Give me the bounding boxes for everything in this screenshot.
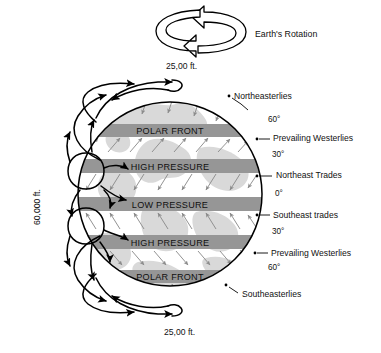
wind-label-northeasterlies: Northeasterlies [234,92,292,101]
band-label-polar-front-south: POLAR FRONT [136,272,204,282]
cell-arc [67,132,70,162]
altitude-label-side: 60,000 ft. [32,189,42,225]
cell-arc [67,236,70,266]
latitude-mark-60-south: 60° [268,264,280,272]
wind-label-southeast-trades: Southeast trades [273,211,338,220]
altitude-label-bottom: 25,00 ft. [164,328,195,337]
latitude-mark-0-equator: 0° [275,190,283,198]
cell-arc-top-return [112,88,168,100]
wind-label-northeast-trades: Northeast Trades [276,171,342,180]
latitude-mark-30-south: 30° [272,228,284,236]
wind-label-southeasterlies: Southeasterlies [242,290,301,299]
wind-label-prevailing-westerlies-south: Prevailing Westerlies [271,249,351,258]
rotation-arrow-lower [156,10,200,57]
latitude-mark-60-north: 60° [268,116,280,124]
band-label-polar-front-north: POLAR FRONT [136,126,204,136]
wind-label-prevailing-westerlies-north: Prevailing Westerlies [273,134,353,143]
cell-arc-bottom-return [112,296,168,308]
altitude-label-top: 25,00 ft. [166,62,197,71]
diagram-canvas: POLAR FRONT HIGH PRESSURE LOW PRESSURE H… [0,0,381,353]
cell-arc [91,244,94,280]
band-label-high-pressure-south: HIGH PRESSURE [131,238,210,248]
earths-rotation-label: Earth's Rotation [255,29,317,39]
band-label-low-pressure: LOW PRESSURE [132,200,208,210]
globe: POLAR FRONT HIGH PRESSURE LOW PRESSURE H… [70,101,270,295]
earths-rotation-arrow [156,6,246,57]
latitude-mark-30-north: 30° [272,151,284,159]
band-label-high-pressure-north: HIGH PRESSURE [131,162,210,172]
